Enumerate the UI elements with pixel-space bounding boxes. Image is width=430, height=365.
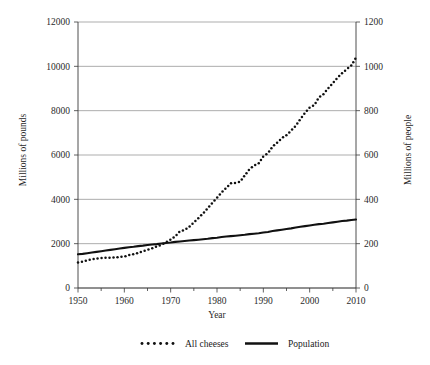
cheese-dot xyxy=(128,254,131,257)
legend-dot xyxy=(159,342,162,345)
cheese-dot xyxy=(282,136,285,139)
left-tick-label-6000: 6000 xyxy=(51,150,70,160)
legend-dot xyxy=(165,342,168,345)
legend-dot xyxy=(147,342,150,345)
cheese-dot xyxy=(124,255,127,258)
cheese-dot xyxy=(288,131,291,134)
right-axis-title: Millions of people xyxy=(403,115,413,185)
cheese-dot xyxy=(211,202,214,205)
cheese-dot xyxy=(301,116,304,119)
cheese-dot xyxy=(143,249,146,252)
cheese-dot xyxy=(208,205,211,208)
cheese-dot xyxy=(81,261,84,264)
right-tick-label-800: 800 xyxy=(364,106,379,116)
cheese-dot xyxy=(338,75,341,78)
cheese-dot xyxy=(262,155,265,158)
cheese-dot xyxy=(245,172,248,175)
legend-label-all-cheeses: All cheeses xyxy=(185,339,229,349)
population-line xyxy=(78,220,356,255)
chart-legend: All cheeses Population xyxy=(141,339,330,349)
cheese-dot xyxy=(205,208,208,211)
cheese-dot xyxy=(185,228,188,231)
cheese-dot xyxy=(319,95,322,98)
cheese-dot xyxy=(344,69,347,72)
cheese-dot xyxy=(234,182,237,185)
cheese-dot xyxy=(291,128,294,131)
right-tick-label-200: 200 xyxy=(364,239,379,249)
cheese-dot xyxy=(350,64,353,67)
cheese-dot xyxy=(325,90,328,93)
cheese-dot xyxy=(188,225,191,228)
cheese-dot xyxy=(296,122,299,125)
right-tick-label-1000: 1000 xyxy=(364,62,383,72)
cheese-dot xyxy=(85,259,88,262)
right-tick-label-0: 0 xyxy=(364,283,369,293)
left-tick-label-8000: 8000 xyxy=(51,106,70,116)
cheese-dot xyxy=(303,113,306,116)
cheese-dot xyxy=(298,119,301,122)
left-tick-label-4000: 4000 xyxy=(51,195,70,205)
cheese-dot xyxy=(265,153,268,156)
cheese-dot xyxy=(347,67,350,70)
cheese-dot xyxy=(147,248,150,251)
cheese-dot xyxy=(169,239,172,242)
cheese-dot xyxy=(314,102,317,105)
data-series xyxy=(77,57,357,263)
cheese-dot xyxy=(312,105,315,108)
cheese-dot xyxy=(92,258,95,261)
cheese-dot xyxy=(151,247,154,250)
cheese-dot xyxy=(108,256,111,259)
cheese-dot xyxy=(270,147,273,150)
cheese-dot xyxy=(308,106,311,109)
left-tick-label-2000: 2000 xyxy=(51,239,70,249)
cheese-dot xyxy=(112,256,115,259)
cheese-dot xyxy=(197,217,200,220)
x-tick-label-1990: 1990 xyxy=(254,296,273,306)
cheese-dot xyxy=(155,246,158,249)
cheese-dot xyxy=(276,141,279,144)
cheese-dot xyxy=(191,222,194,225)
cheese-dot xyxy=(194,220,197,223)
cheese-dot xyxy=(268,150,271,153)
cheese-dot xyxy=(354,57,357,60)
cheese-dot xyxy=(227,185,230,188)
cheese-dot xyxy=(175,234,178,237)
left-tick-label-12000: 12000 xyxy=(46,17,70,27)
cheese-dot xyxy=(136,252,139,255)
cheese-dot xyxy=(116,256,119,259)
tick-labels: 0200040006000800010000120000200400600800… xyxy=(46,17,383,306)
left-tick-label-10000: 10000 xyxy=(46,62,70,72)
cheese-dot xyxy=(306,109,309,112)
series-population xyxy=(78,220,356,255)
legend-dot xyxy=(153,342,156,345)
left-tick-label-0: 0 xyxy=(65,283,70,293)
tick-marks xyxy=(74,22,360,293)
x-tick-label-1970: 1970 xyxy=(161,296,180,306)
legend-dot xyxy=(172,342,175,345)
cheese-dot xyxy=(258,162,261,165)
cheese-dot xyxy=(333,81,336,84)
cheese-dot xyxy=(238,181,241,184)
cheese-dot xyxy=(213,199,216,202)
cheese-dot xyxy=(132,253,135,256)
cheese-dot xyxy=(243,175,246,178)
cheese-dot xyxy=(316,98,319,101)
x-tick-label-2010: 2010 xyxy=(347,296,366,306)
cheese-dot xyxy=(254,164,256,167)
right-tick-label-400: 400 xyxy=(364,195,379,205)
cheese-dot xyxy=(285,134,288,137)
cheese-dot xyxy=(273,144,276,147)
cheese-dot xyxy=(221,190,224,193)
cheese-dot xyxy=(77,261,80,264)
cheese-dot xyxy=(216,196,219,199)
cheese-dot xyxy=(200,214,203,217)
cheese-dot xyxy=(327,87,330,90)
right-tick-label-1200: 1200 xyxy=(364,17,383,27)
cheese-dot xyxy=(100,257,103,260)
cheese-dot xyxy=(352,61,355,64)
cheese-dot xyxy=(330,84,333,87)
cheese-dot xyxy=(224,187,227,190)
x-tick-label-2000: 2000 xyxy=(300,296,319,306)
legend-dot xyxy=(141,342,144,345)
cheese-dot xyxy=(335,78,338,81)
